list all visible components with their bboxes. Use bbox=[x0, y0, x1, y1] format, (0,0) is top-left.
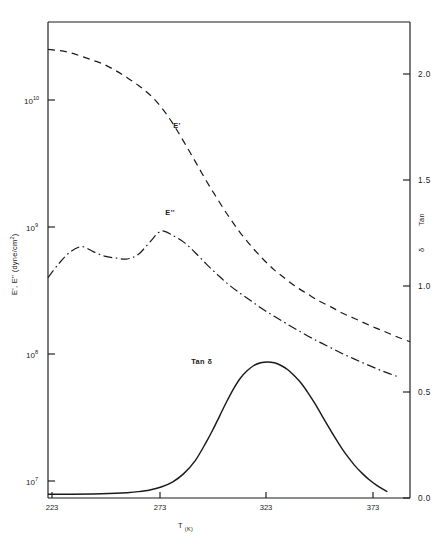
plot-frame bbox=[48, 22, 410, 498]
ytick-label-1e8: 108 bbox=[26, 349, 38, 360]
dma-chart-figure: 1010 109 108 107 E', E'' (dyne/cm2) 223 … bbox=[0, 0, 445, 548]
left-axis-title: E', E'' (dyne/cm2) bbox=[9, 233, 19, 295]
curve-e-prime bbox=[48, 49, 410, 341]
ytick-label-1e9: 109 bbox=[26, 222, 38, 233]
ytick-label-1e10: 1010 bbox=[24, 95, 39, 106]
right-axis-title-tan: Tan bbox=[417, 213, 426, 226]
left-axis-ticklabels: 1010 109 108 107 bbox=[24, 95, 39, 487]
curve-label-e-doubleprime: E'' bbox=[165, 208, 175, 217]
xtick-label-373: 373 bbox=[367, 503, 380, 512]
curve-annotations: E' E'' Tan δ bbox=[165, 121, 212, 366]
curve-tan-delta bbox=[48, 362, 387, 494]
data-curves bbox=[48, 49, 410, 494]
x-axis-ticks bbox=[52, 492, 373, 498]
curve-label-tan-delta: Tan δ bbox=[191, 357, 212, 366]
xtick-label-323: 323 bbox=[260, 503, 273, 512]
right-axis-title: Tan δ bbox=[417, 213, 426, 252]
curve-label-e-prime: E' bbox=[173, 121, 181, 130]
y2tick-label-1p0: 1.0 bbox=[418, 282, 431, 291]
y2tick-label-0p0: 0.0 bbox=[418, 494, 431, 503]
y2tick-label-1p5: 1.5 bbox=[418, 176, 431, 185]
ytick-label-1e7: 107 bbox=[26, 476, 38, 487]
y2tick-label-0p5: 0.5 bbox=[418, 388, 431, 397]
right-axis-ticklabels: 2.0 1.5 1.0 0.5 0.0 bbox=[418, 70, 431, 503]
right-axis-ticks bbox=[403, 74, 410, 498]
y2tick-label-2p0: 2.0 bbox=[418, 70, 431, 79]
right-axis-title-delta: δ bbox=[417, 248, 426, 252]
curve-e-doubleprime bbox=[48, 231, 399, 377]
xtick-label-223: 223 bbox=[46, 503, 59, 512]
left-axis-ticks bbox=[48, 100, 55, 481]
xtick-label-273: 273 bbox=[154, 503, 167, 512]
chart-svg: 1010 109 108 107 E', E'' (dyne/cm2) 223 … bbox=[0, 0, 445, 548]
x-axis-title: T(K) bbox=[178, 521, 193, 532]
x-axis-ticklabels: 223 273 323 373 bbox=[46, 503, 380, 512]
